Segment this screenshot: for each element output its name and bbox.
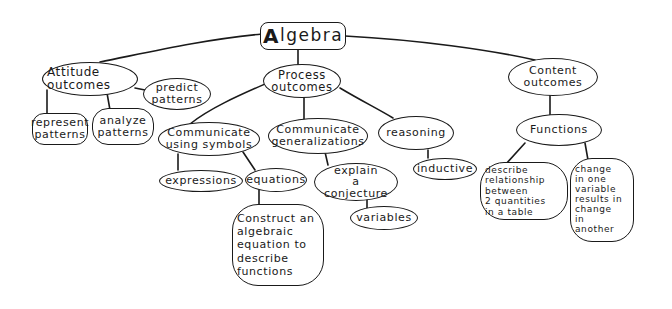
node-represent-patterns: represent patterns bbox=[32, 113, 88, 145]
node-describe-relationship: describe relationship between 2 quantiti… bbox=[480, 162, 568, 220]
node-functions: Functions bbox=[516, 114, 602, 146]
node-explain-conjecture: explain a conjecture bbox=[314, 163, 398, 201]
node-change-in-variable: change in one variable results in change… bbox=[570, 158, 634, 242]
node-construct-equation: Construct an algebraic equation to descr… bbox=[232, 204, 324, 286]
node-expressions: expressions bbox=[159, 170, 243, 192]
root-initial: A bbox=[263, 26, 280, 47]
node-predict-patterns: predict patterns bbox=[143, 78, 211, 110]
node-equations: equations bbox=[245, 168, 307, 192]
node-variables: variables bbox=[350, 206, 418, 230]
node-process-outcomes: Process outcomes bbox=[263, 64, 341, 98]
node-communicate-using-symbols: Communicate using symbols bbox=[158, 122, 260, 156]
node-inductive: inductive bbox=[413, 158, 477, 180]
node-reasoning: reasoning bbox=[378, 116, 454, 150]
node-analyze-patterns: analyze patterns bbox=[92, 108, 154, 145]
root-rest: lgebra bbox=[280, 27, 343, 45]
node-content-outcomes: Content outcomes bbox=[508, 58, 598, 96]
node-attitude-outcomes: Attitude outcomes bbox=[42, 62, 138, 96]
root-node-algebra: Algebra bbox=[260, 22, 346, 50]
node-communicate-generalizations: Communicate generalizations bbox=[268, 118, 368, 154]
